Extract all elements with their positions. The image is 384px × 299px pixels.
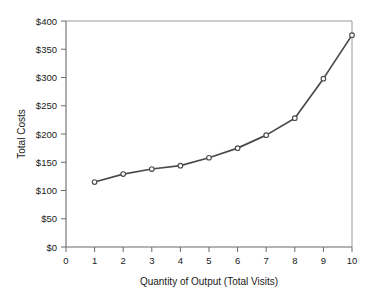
y-tick-label: $100 (36, 185, 57, 196)
y-axis-ticks (61, 21, 66, 247)
y-tick-label: $150 (36, 157, 57, 168)
y-tick-label: $300 (36, 72, 57, 83)
y-tick-label: $50 (41, 213, 57, 224)
data-point-marker (92, 180, 97, 185)
x-tick-label: 8 (292, 255, 297, 266)
x-tick-label: 9 (321, 255, 326, 266)
x-tick-label: 0 (63, 255, 68, 266)
x-tick-label: 1 (92, 255, 97, 266)
data-point-marker (235, 146, 240, 151)
y-axis-title: Total Costs (16, 109, 27, 158)
data-point-markers (92, 33, 354, 185)
x-tick-label: 2 (121, 255, 126, 266)
y-axis-tick-labels: $400 $350 $300 $250 $200 $150 $100 $50 $… (36, 16, 57, 253)
data-point-marker (121, 172, 126, 177)
data-point-marker (321, 76, 326, 81)
x-tick-label: 3 (149, 255, 154, 266)
x-tick-label: 4 (178, 255, 183, 266)
y-tick-label: $200 (36, 129, 57, 140)
data-series-line (95, 35, 352, 182)
line-chart: $400 $350 $300 $250 $200 $150 $100 $50 $… (0, 0, 384, 299)
x-tick-label: 7 (264, 255, 269, 266)
data-point-marker (293, 116, 298, 121)
y-tick-label: $0 (46, 242, 57, 253)
x-tick-label: 6 (235, 255, 240, 266)
x-tick-label: 5 (206, 255, 211, 266)
chart-figure: $400 $350 $300 $250 $200 $150 $100 $50 $… (0, 0, 384, 299)
x-axis-ticks (66, 247, 352, 252)
plot-frame (66, 21, 352, 247)
data-point-marker (207, 155, 212, 160)
y-tick-label: $400 (36, 16, 57, 27)
y-tick-label: $350 (36, 44, 57, 55)
data-point-marker (178, 163, 183, 168)
x-axis-title: Quantity of Output (Total Visits) (140, 276, 278, 287)
x-axis-tick-labels: 0 1 2 3 4 5 6 7 8 9 10 (63, 255, 357, 266)
data-point-marker (150, 167, 155, 172)
y-tick-label: $250 (36, 100, 57, 111)
data-point-marker (264, 133, 269, 138)
x-tick-label: 10 (347, 255, 358, 266)
data-point-marker (350, 33, 355, 38)
